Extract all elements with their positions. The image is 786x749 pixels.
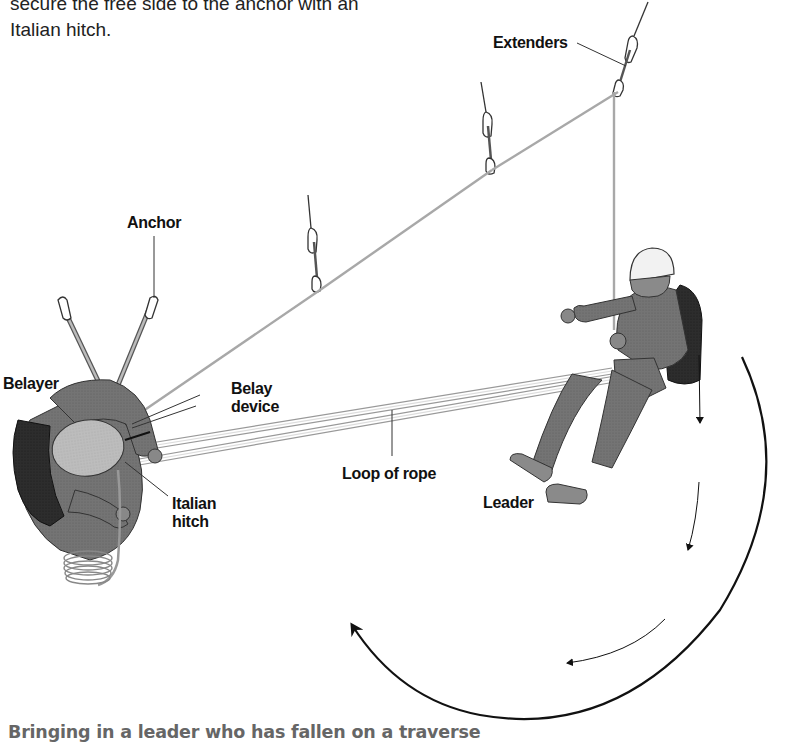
extender-middle <box>481 82 495 174</box>
label-italian-hitch-line-2: hitch <box>172 513 216 531</box>
label-belay-device: Belay device <box>231 380 279 416</box>
label-leader: Leader <box>483 494 534 512</box>
label-anchor: Anchor <box>127 214 181 232</box>
label-loop-of-rope: Loop of rope <box>342 465 436 483</box>
rope-coil <box>64 551 112 584</box>
belayer-figure <box>13 380 162 560</box>
traverse-fall-illustration <box>0 0 786 749</box>
leader-figure <box>510 248 702 504</box>
label-belayer: Belayer <box>3 375 59 393</box>
extender-high <box>613 2 648 97</box>
label-belay-device-line-1: Belay <box>231 380 279 398</box>
label-italian-hitch-line-1: Italian <box>172 495 216 513</box>
extender-low <box>308 195 321 292</box>
rope-to-extenders <box>130 92 618 420</box>
label-belay-device-line-2: device <box>231 398 279 416</box>
label-extenders: Extenders <box>493 34 568 52</box>
label-italian-hitch: Italian hitch <box>172 495 216 531</box>
anchor-slings <box>58 296 158 385</box>
figure-caption: Bringing in a leader who has fallen on a… <box>8 722 480 742</box>
